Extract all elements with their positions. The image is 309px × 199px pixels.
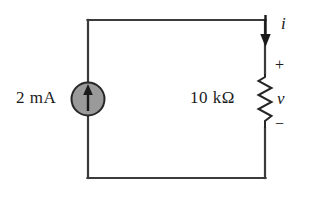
circuit-diagram: 2 mA 10 kΩ + v − i (0, 0, 309, 199)
voltage-symbol-label: v (277, 89, 285, 109)
resistor-value-label: 10 kΩ (190, 88, 235, 108)
resistor-symbol (259, 74, 272, 128)
current-symbol-label: i (281, 14, 286, 34)
current-source-symbol (72, 83, 105, 116)
voltage-polarity-minus-label: − (275, 115, 284, 133)
circuit-wires (88, 20, 266, 178)
voltage-polarity-plus-label: + (275, 56, 284, 74)
current-arrow-head (260, 34, 270, 47)
resistor-zigzag (259, 74, 272, 128)
current-source-value-label: 2 mA (16, 88, 56, 108)
